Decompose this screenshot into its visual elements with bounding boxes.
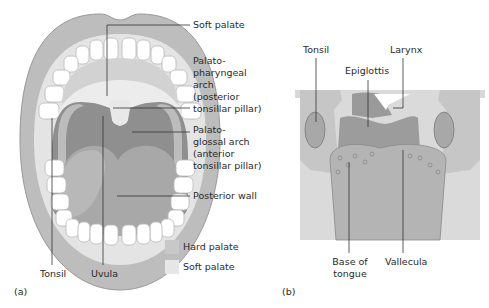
- label-tonsil-b: Tonsil: [303, 44, 329, 56]
- label-soft-palate: Soft palate: [193, 19, 245, 31]
- label-tonsil-a: Tonsil: [40, 268, 66, 280]
- label-posterior-wall: Posterior wall: [193, 190, 257, 202]
- caption-b: (b): [282, 286, 295, 298]
- label-base-of-tongue: Base of tongue: [330, 256, 370, 280]
- panel-b-oropharynx: [295, 58, 485, 253]
- label-palatoglossal-arch: Palato- glossal arch (anterior tonsillar…: [193, 124, 262, 172]
- tonsil-left: [305, 112, 325, 148]
- label-larynx: Larynx: [390, 44, 422, 56]
- caption-a: (a): [14, 286, 27, 298]
- legend-swatch-hard-palate: [165, 240, 179, 254]
- legend-swatch-soft-palate: [165, 260, 179, 274]
- tonsil-right: [434, 112, 454, 148]
- label-uvula: Uvula: [91, 268, 118, 280]
- label-epiglottis: Epiglottis: [345, 65, 389, 77]
- label-palatopharyngeal-arch: Palato- pharyngeal arch (posterior tonsi…: [193, 55, 262, 115]
- legend-label-soft-palate: Soft palate: [183, 261, 235, 273]
- legend-label-hard-palate: Hard palate: [183, 241, 239, 253]
- tongue-base: [330, 144, 446, 240]
- label-vallecula: Vallecula: [385, 256, 427, 268]
